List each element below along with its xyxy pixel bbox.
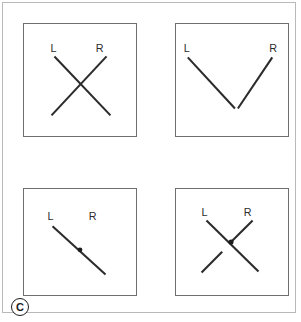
panel-3-midpoint-dot (78, 247, 83, 252)
panel-2-left-arm (188, 57, 235, 108)
panel-1-left-arm (54, 56, 110, 115)
figure-outer-frame: L R L R L R (2, 2, 296, 313)
panel-4-right-upper-arm (232, 220, 253, 241)
stimulus-panel-top-right: L R (175, 23, 289, 137)
panel-3-label-right: R (89, 210, 97, 222)
panel-3-label-left: L (48, 210, 54, 222)
panel-2-label-left: L (184, 42, 190, 54)
panel-2-right-arm (238, 57, 272, 108)
panel-1-drawing: L R (24, 24, 136, 136)
panel-3-drawing: L R (24, 189, 136, 295)
stimulus-panel-top-left: L R (23, 23, 137, 137)
panel-4-label-left: L (202, 206, 208, 218)
panel-4-drawing: L R (176, 189, 288, 295)
figure-root: L R L R L R (0, 0, 301, 322)
stimulus-panel-bottom-right: L R (175, 188, 289, 296)
panel-4-left-lower-arm (202, 252, 223, 273)
figure-panel-letter: C (11, 298, 29, 316)
panel-4-crossing-dot (228, 239, 233, 244)
stimulus-panel-bottom-left: L R (23, 188, 137, 296)
panel-1-label-left: L (50, 42, 56, 54)
panel-2-drawing: L R (176, 24, 288, 136)
panel-2-label-right: R (269, 42, 277, 54)
panel-1-label-right: R (96, 42, 104, 54)
panel-4-left-upper-arm (206, 220, 258, 271)
panel-4-label-right: R (244, 206, 252, 218)
panel-1-right-arm (52, 56, 107, 115)
